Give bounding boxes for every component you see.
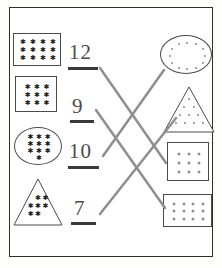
numerals-group: 12 9 10 7	[0, 0, 222, 268]
numeral-12: 12	[69, 42, 92, 63]
numeral-7: 7	[74, 198, 86, 219]
worksheet-page: ✱ ✱ ✱ ✱ ✱ ✱ ✱ ✱ ✱ ✱ ✱ ✱ ✱ ✱ ✱ ✱ ✱	[0, 0, 222, 268]
numeral-10: 10	[69, 141, 92, 162]
numeral-9: 9	[72, 96, 84, 117]
numeral-12-underline	[68, 67, 98, 70]
numeral-10-underline	[68, 166, 99, 169]
numeral-9-underline	[70, 120, 94, 123]
numeral-7-underline	[71, 222, 96, 225]
